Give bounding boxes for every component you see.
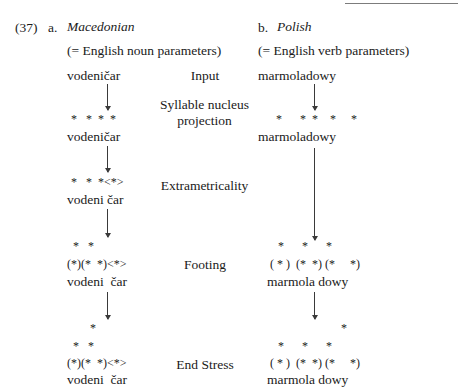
grid-a-footing-top: * *: [73, 240, 94, 252]
derivation-arrow-a-footing-to-endstress: [107, 292, 108, 319]
derivation-arrow-a-input-to-syllable: [107, 84, 108, 110]
derivation-word-b-input: marmoladowy: [258, 69, 336, 83]
derivation-arrow-b-footing-to-endstress: [314, 292, 315, 319]
grid-a-extrametricality: * * *<*>: [71, 176, 124, 188]
grid-a-footing: (*)(* *)<*>: [67, 258, 127, 270]
grid-b-footing: ( * ) (* *) (* *): [270, 258, 360, 270]
grid-a-syllable-nucleus: * * * *: [71, 113, 116, 125]
gloss-macedonian: (= English noun parameters): [67, 44, 221, 58]
item-marker-b: b.: [258, 21, 268, 35]
derivation-word-a-input: vodeničar: [67, 69, 120, 83]
stage-label-input: Input: [160, 69, 250, 83]
derivation-word-b-footing: marmola dowy: [267, 275, 348, 289]
header-rule: [345, 3, 458, 4]
grid-a-endstress-mid: * *: [73, 340, 94, 352]
stage-label-extrametricality: Extrametricality: [147, 179, 262, 193]
derivation-word-a-syllable: vodeničar: [67, 130, 120, 144]
example-number: (37): [15, 21, 38, 35]
item-marker-a: a.: [48, 21, 57, 35]
gloss-polish: (= English verb parameters): [258, 44, 409, 58]
grid-b-endstress-mid: * * *: [278, 340, 332, 352]
derivation-word-b-endstress: marmola dowy: [267, 373, 348, 387]
derivation-word-b-syllable: marmoladowy: [258, 130, 336, 144]
language-title-polish: Polish: [277, 20, 312, 34]
stage-label-end-stress: End Stress: [155, 358, 255, 372]
derivation-word-a-endstress: vodeni čar: [67, 373, 127, 387]
grid-b-endstress-top: *: [341, 322, 347, 334]
derivation-arrow-a-syllable-to-extra: [107, 146, 108, 172]
grid-a-endstress: (*)(* *)<*>: [67, 357, 127, 369]
derivation-arrow-b-syllable-to-footing: [314, 148, 315, 240]
grid-b-endstress: ( * ) (* *) (* *): [270, 357, 360, 369]
language-title-macedonian: Macedonian: [67, 20, 134, 34]
derivation-word-a-footing: vodeni čar: [67, 275, 127, 289]
derivation-arrow-b-input-to-syllable: [314, 84, 315, 110]
grid-b-footing-top: * * *: [278, 240, 332, 252]
stage-label-syllable-nucleus-line1: Syllable nucleus: [147, 98, 262, 112]
grid-a-endstress-top: *: [90, 322, 96, 334]
derivation-arrow-a-extra-to-footing: [107, 209, 108, 237]
stage-label-footing: Footing: [160, 258, 250, 272]
derivation-word-a-extrametricality: vodeni čar: [67, 193, 124, 207]
stage-label-syllable-nucleus-line2: projection: [147, 114, 262, 128]
document-page: (37) a. Macedonian b. Polish (= English …: [0, 0, 458, 387]
grid-b-syllable-nucleus: * * * * *: [276, 113, 357, 125]
